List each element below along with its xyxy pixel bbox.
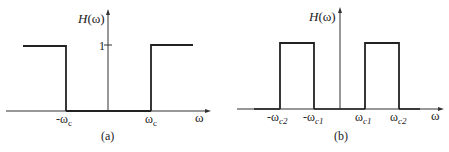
panel-a-right-passband xyxy=(151,45,193,111)
panel-b-y-label: H(ω) xyxy=(308,9,336,24)
panel-b-left-passband xyxy=(280,43,314,109)
panel-b-y-arrow-icon xyxy=(338,7,342,13)
panel-a: H(ω) 1 -ωc ωc ω (a) xyxy=(6,9,211,143)
panel-a-y-label: H(ω) xyxy=(77,11,105,26)
panel-a-level-label: 1 xyxy=(99,39,105,53)
panel-b-tick-neg-wc2: -ωc2 xyxy=(267,110,288,126)
panel-a-tick-pos-wc: ωc xyxy=(145,112,157,128)
panel-a-tick-neg-wc: -ωc xyxy=(56,112,72,128)
panel-b-caption: (b) xyxy=(334,129,348,143)
panel-b-tick-pos-wc2: ωc2 xyxy=(390,110,407,126)
panel-b-tick-neg-wc1: -ωc1 xyxy=(303,110,323,126)
panel-a-caption: (a) xyxy=(101,129,114,143)
panel-b-right-passband xyxy=(365,43,399,109)
panel-a-y-arrow-icon xyxy=(106,9,110,15)
panel-a-left-passband xyxy=(23,46,66,111)
panel-a-x-arrow-icon xyxy=(205,109,211,113)
panel-a-x-label: ω xyxy=(195,110,204,125)
panel-b-tick-pos-wc1: ωc1 xyxy=(355,110,371,126)
panel-b-x-label: ω xyxy=(431,108,440,123)
panel-b: H(ω) -ωc2 -ωc1 ωc1 ωc2 ω (b) xyxy=(237,7,444,143)
filter-response-diagram: H(ω) 1 -ωc ωc ω (a) H(ω) -ωc2 xyxy=(0,0,449,152)
